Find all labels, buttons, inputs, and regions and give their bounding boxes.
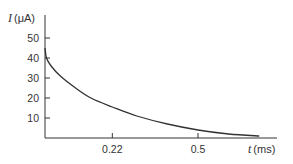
x-tick-label: 0.5 (191, 143, 206, 155)
x-axis-label: t(ms) (248, 142, 275, 156)
y-tick-label: 10 (27, 112, 39, 124)
y-tick-label: 40 (27, 52, 39, 64)
x-tick-label: 0.22 (102, 143, 123, 155)
y-tick-label: 50 (27, 32, 39, 44)
y-axis-label: I(μA) (7, 11, 35, 25)
y-tick-label: 20 (27, 92, 39, 104)
y-ticks: 1020304050 (27, 32, 50, 124)
y-tick-label: 30 (27, 72, 39, 84)
current-decay-chart: I(μA) t(ms) 1020304050 0.220.5 (0, 0, 293, 164)
current-curve (45, 48, 259, 136)
x-ticks: 0.220.5 (102, 133, 205, 155)
